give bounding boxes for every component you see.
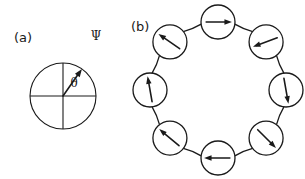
node-top — [201, 5, 235, 39]
node-bottom-left — [153, 121, 187, 155]
ring-link — [276, 55, 283, 73]
node-top-left — [153, 25, 187, 59]
node-right — [269, 73, 303, 107]
panel-b: (b) — [131, 5, 303, 175]
figure-container: (a) Ψ θ (b) — [0, 0, 305, 179]
ring-link — [152, 55, 159, 73]
figure-canvas: (a) Ψ θ (b) — [0, 0, 305, 179]
ring-link — [276, 107, 283, 125]
node-top-right — [249, 25, 283, 59]
panel-a-label: (a) — [14, 30, 32, 45]
panel-a: (a) Ψ θ — [14, 29, 102, 129]
ring-link — [235, 24, 253, 31]
node-left — [133, 73, 167, 107]
node-bottom-right — [249, 121, 283, 155]
psi-symbol-label: Ψ — [91, 29, 102, 43]
node-bottom — [201, 141, 235, 175]
ring-link — [183, 24, 201, 31]
theta-symbol-label: θ — [70, 76, 77, 90]
ring-spin-nodes — [133, 5, 303, 175]
panel-b-label: (b) — [131, 19, 149, 34]
ring-link — [235, 148, 253, 155]
ring-link — [152, 107, 159, 125]
ring-link — [183, 148, 201, 155]
